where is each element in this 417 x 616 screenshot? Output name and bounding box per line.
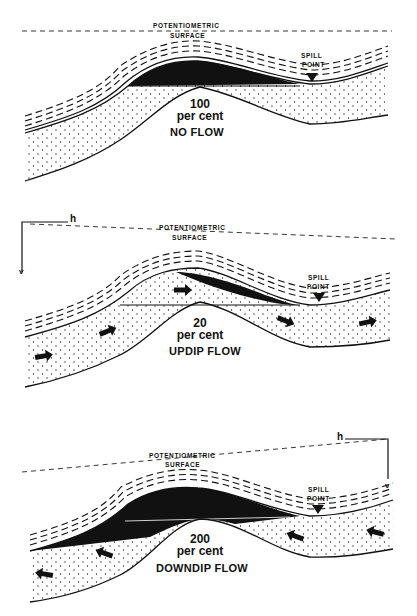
axis-h-label: h [70, 213, 76, 224]
flow-label: NO FLOW [170, 126, 224, 138]
percent-unit: per cent [177, 328, 224, 342]
potentiometric-label: POTENTIOMETRIC [149, 452, 216, 459]
axis-h-label: h [337, 431, 343, 442]
h-v-axes [22, 222, 68, 272]
percent-unit: per cent [177, 544, 224, 558]
axis-v-label: v [19, 267, 24, 276]
potentiometric-label: POTENTIOMETRIC [153, 22, 220, 29]
hydrodynamic-trap-diagram: POTENTIOMETRIC SURFACE SPILL POINT 100 p… [0, 0, 417, 616]
point-label: POINT [307, 495, 330, 502]
point-label: POINT [302, 61, 325, 68]
flow-label: UPDIP FLOW [169, 345, 241, 357]
panel-downdip-flow: h v POTENTIOMETRIC SURFACE SPILL POINT 2… [22, 431, 393, 602]
surface-label: SURFACE [172, 234, 207, 241]
h-v-axes [345, 439, 388, 479]
spill-label: SPILL [301, 52, 322, 59]
point-label: POINT [307, 283, 330, 290]
potentiometric-label: POTENTIOMETRIC [159, 224, 226, 231]
surface-label: SURFACE [165, 461, 200, 468]
panel-updip-flow: h v POTENTIOMETRIC SURFACE SPILL POINT 2… [19, 213, 396, 387]
panel-no-flow: POTENTIOMETRIC SURFACE SPILL POINT 100 p… [22, 22, 392, 181]
spill-label: SPILL [308, 274, 329, 281]
oil-accumulation [30, 488, 300, 551]
spill-label: SPILL [308, 486, 329, 493]
surface-label: SURFACE [170, 32, 205, 39]
percent-unit: per cent [177, 109, 224, 123]
flow-label: DOWNDIP FLOW [156, 562, 248, 574]
